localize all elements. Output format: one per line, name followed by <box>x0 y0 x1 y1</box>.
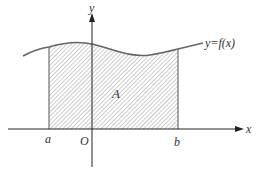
integral-diagram: y x O a b A y=f(x) <box>0 0 256 177</box>
origin-label: O <box>80 134 89 148</box>
upper-bound-label: b <box>174 135 180 149</box>
y-axis-label: y <box>88 1 95 15</box>
x-axis-label: x <box>245 122 252 136</box>
lower-bound-label: a <box>45 132 51 146</box>
area-label: A <box>111 86 120 101</box>
x-axis-arrow-icon <box>235 126 244 132</box>
function-label: y=f(x) <box>204 36 235 50</box>
